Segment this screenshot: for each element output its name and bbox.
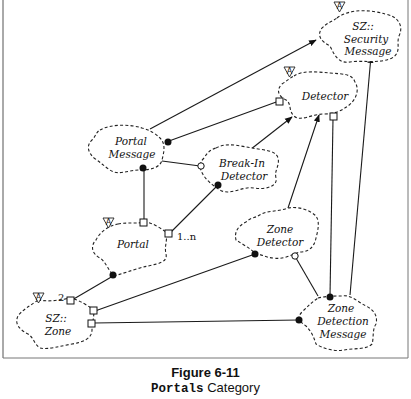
figure-title: Portals Category (0, 380, 411, 397)
has-zone-zonedetmsg (94, 320, 299, 323)
uses-zonedetmsg-zonedetector (296, 258, 318, 296)
zone-detector-line1: Zone (266, 223, 294, 235)
inherit-zonedetector-detector (288, 115, 319, 208)
has-detector-zonedetmsg (330, 119, 333, 296)
figure-number: Figure 6-11 (0, 366, 411, 380)
class-zone-detector[interactable]: Zone Detector (235, 207, 318, 258)
has-portalmsg-detector (169, 101, 279, 141)
break-in-detector-line1: Break-In (218, 157, 265, 169)
diagram-frame: SZ:: Security Message A Detector A Porta… (0, 0, 411, 399)
container-square-icon (67, 297, 74, 304)
container-square-icon (90, 307, 97, 314)
security-message-line3: Message (344, 45, 392, 57)
figure-title-rest: Category (204, 380, 260, 395)
zone-detection-message-line2: Detection (316, 315, 369, 327)
container-square-icon (330, 113, 337, 120)
zone-line1: SZ:: (45, 312, 67, 324)
has-zone-portal (72, 276, 113, 300)
class-break-in-detector[interactable]: Break-In Detector (200, 145, 278, 192)
portal-label: Portal (116, 238, 149, 250)
multiplicity-1-n: 1..n (177, 231, 197, 242)
abstract-adornment-icon: A (334, 2, 345, 12)
class-detector[interactable]: Detector (279, 72, 358, 118)
container-square-icon (140, 219, 147, 226)
class-diagram: SZ:: Security Message A Detector A Porta… (0, 0, 411, 399)
multiplicity-2: 2 (58, 292, 64, 303)
svg-text:A: A (287, 67, 293, 76)
uses-circle-icon (292, 253, 298, 259)
svg-text:A: A (337, 2, 343, 11)
uses-portalmsg-breakin (162, 161, 200, 166)
has-dot-icon (215, 182, 222, 189)
container-square-icon (165, 230, 172, 237)
class-zone[interactable]: SZ:: Zone (17, 298, 94, 349)
portal-message-line2: Message (108, 148, 156, 160)
svg-text:A: A (36, 293, 42, 302)
has-dot-icon (327, 294, 334, 301)
figure-title-mono: Portals (151, 382, 204, 396)
inherit-breakin-detector (246, 117, 292, 153)
container-square-icon (88, 320, 95, 327)
has-dot-icon (296, 317, 303, 324)
has-dot-icon (140, 165, 147, 172)
class-security-message[interactable]: SZ:: Security Message (320, 11, 401, 63)
portal-message-line1: Portal (114, 135, 147, 147)
has-portal-breakin (170, 185, 218, 233)
uses-circle-icon (198, 163, 204, 169)
class-portal-message[interactable]: Portal Message (88, 125, 164, 172)
svg-text:A: A (106, 218, 112, 227)
zone-detector-line2: Detector (256, 236, 304, 248)
security-message-line2: Security (344, 33, 390, 45)
has-dot-icon (110, 272, 117, 279)
zone-detection-message-line1: Zone (327, 302, 355, 314)
figure-caption: Figure 6-11 Portals Category (0, 366, 411, 397)
has-dot-icon (165, 139, 172, 146)
break-in-detector-line2: Detector (220, 170, 268, 182)
zone-line2: Zone (44, 325, 72, 337)
security-message-line1: SZ:: (352, 20, 374, 32)
abstract-adornment-icon: A (284, 67, 295, 77)
zone-detection-message-line3: Message (319, 328, 367, 340)
container-square-icon (276, 98, 283, 105)
class-zone-detection-message[interactable]: Zone Detection Message (299, 296, 376, 351)
detector-label: Detector (301, 90, 349, 102)
class-portal[interactable]: Portal (93, 222, 167, 276)
has-dot-icon (252, 251, 259, 258)
